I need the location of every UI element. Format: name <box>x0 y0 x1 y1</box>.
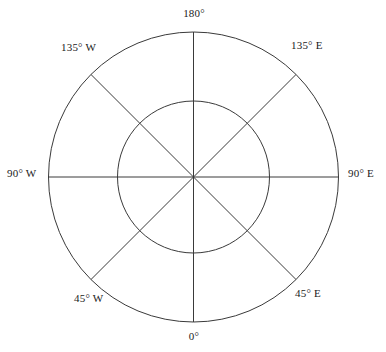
axis-label-90w: 90° W <box>7 168 36 179</box>
polar-azimuth-diagram: 180° 135° E 90° E 45° E 0° 45° W 90° W 1… <box>0 0 386 352</box>
axis-label-180: 180° <box>173 8 215 19</box>
axis-label-45e: 45° E <box>295 288 321 299</box>
axis-label-90e: 90° E <box>348 168 374 179</box>
axis-label-45w: 45° W <box>74 293 103 304</box>
polar-grid-svg <box>0 0 386 352</box>
axis-label-0: 0° <box>173 331 215 342</box>
axis-label-135e: 135° E <box>291 40 323 51</box>
axis-label-135w: 135° W <box>61 42 96 53</box>
